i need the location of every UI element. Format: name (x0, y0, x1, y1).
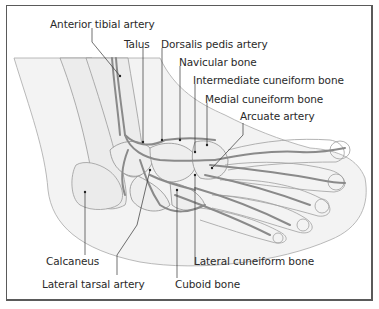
label-arcuate-artery: Arcuate artery (240, 110, 315, 122)
label-lateral-tarsal-artery: Lateral tarsal artery (42, 278, 145, 290)
label-navicular-bone: Navicular bone (179, 56, 257, 68)
label-anterior-tibial-artery: Anterior tibial artery (50, 18, 155, 30)
label-dorsalis-pedis-artery: Dorsalis pedis artery (161, 38, 268, 50)
label-calcaneus: Calcaneus (46, 255, 99, 267)
label-cuboid-bone: Cuboid bone (175, 278, 240, 290)
label-lateral-cuneiform-bone: Lateral cuneiform bone (194, 255, 314, 267)
label-medial-cuneiform-bone: Medial cuneiform bone (205, 93, 323, 105)
label-talus: Talus (124, 38, 150, 50)
label-intermediate-cuneiform-bone: Intermediate cuneiform bone (193, 74, 344, 86)
